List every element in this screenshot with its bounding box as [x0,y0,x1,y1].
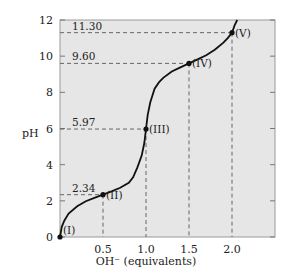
y-tick-label: 2 [46,195,53,208]
value-annotation: 11.30 [72,20,102,32]
point-marker [229,30,234,35]
point-label: (III) [149,123,170,135]
y-tick-label: 6 [46,123,53,136]
point-marker [57,234,62,239]
y-tick-label: 10 [39,50,53,63]
x-axis-label: OH⁻ (equivalents) [96,255,197,268]
y-tick-label: 12 [39,14,53,27]
y-axis-label: pH [22,127,39,140]
x-tick-label: 2.0 [223,243,241,256]
point-label: (II) [106,189,123,201]
point-label: (V) [235,27,251,39]
point-marker [186,61,191,66]
point-label: (IV) [192,57,212,69]
point-label: (I) [63,224,75,236]
y-tick-label: 8 [46,86,53,99]
value-annotation: 9.60 [72,50,95,62]
value-annotation: 5.97 [72,116,95,128]
point-marker [143,126,148,131]
value-annotation: 2.34 [72,182,96,194]
y-tick-label: 0 [46,231,53,244]
titration-chart: 024681012 0.51.01.52.0 2.345.979.6011.30… [0,0,288,280]
point-marker [100,192,105,197]
y-tick-label: 4 [46,159,53,172]
